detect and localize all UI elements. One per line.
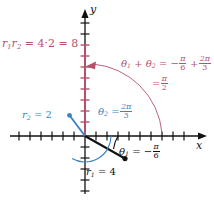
theta-sum-term1-fraction: π6 — [179, 55, 186, 73]
theta2-fraction: 2π3 — [120, 103, 132, 121]
theta-sum-term2-numerator: 2π — [199, 55, 211, 63]
theta2-subscript: 2 — [104, 110, 108, 117]
label-theta2-angle: θ2 =2π3 — [98, 103, 133, 121]
x-axis — [10, 132, 207, 141]
label-r1-magnitude: r1 = 4 — [86, 167, 116, 178]
theta-sum-result-equals: = — [152, 78, 160, 89]
theta1-equals: = — [132, 146, 140, 157]
theta2-numerator: 2π — [120, 103, 132, 111]
angle-arc-theta1 — [114, 136, 119, 149]
theta1-minus: − — [144, 146, 152, 157]
theta-sum-theta2-subscript: 2 — [152, 62, 156, 69]
label-theta-sum-result: =π2 — [152, 75, 168, 93]
r2-value: 2 — [45, 109, 51, 120]
theta-sum-term2-denominator: 3 — [199, 63, 211, 72]
vector-z2 — [67, 113, 85, 136]
theta-sum-term1-numerator: π — [179, 55, 186, 63]
label-theta1-angle: θ1 = −π6 — [119, 143, 160, 161]
theta-sum-term2-fraction: 2π3 — [199, 55, 211, 73]
theta1-subscript: 1 — [125, 150, 129, 157]
theta1-fraction: π6 — [153, 143, 160, 161]
x-axis-label: x — [196, 140, 202, 151]
theta1-denominator: 6 — [153, 151, 160, 160]
theta2-equals: = — [111, 106, 119, 117]
theta-sum-minus: − — [170, 58, 178, 69]
theta-sum-result-numerator: π — [161, 75, 168, 83]
theta-sum-equals: = — [159, 58, 167, 69]
product-result: 8 — [71, 37, 78, 50]
label-product-magnitude: r1r2 = 4·2 = 8 — [2, 38, 78, 51]
theta2-denominator: 3 — [120, 111, 132, 120]
r1-equals: = — [98, 166, 106, 177]
theta-sum-result-fraction: π2 — [161, 75, 168, 93]
theta-sum-plus-2: + — [190, 58, 198, 69]
r2-subscript: 2 — [27, 114, 31, 121]
theta-sum-plus: + — [134, 58, 142, 69]
r1-value: 4 — [109, 166, 115, 177]
polar-multiplication-figure: r1r2 = 4·2 = 8 θ1 + θ2 = −π6 +2π3 =π2 r2… — [0, 0, 214, 201]
r1-subscript: 1 — [91, 171, 95, 178]
y-axis-negative — [81, 136, 90, 194]
product-equals-2: = — [58, 37, 67, 50]
label-theta-sum: θ1 + θ2 = −π6 +2π3 — [121, 55, 211, 73]
theta-sum-result-denominator: 2 — [161, 83, 168, 92]
theta-sum-term1-denominator: 6 — [179, 63, 186, 72]
r2-equals: = — [34, 109, 42, 120]
y-axis-label: y — [90, 4, 96, 15]
label-r2-magnitude: r2 = 2 — [22, 110, 52, 121]
theta-sum-theta1-subscript: 1 — [127, 62, 131, 69]
product-r2-subscript: 2 — [17, 43, 21, 51]
product-equals-1: = — [25, 37, 34, 50]
theta1-numerator: π — [153, 143, 160, 151]
product-expression: 4·2 — [37, 37, 55, 50]
